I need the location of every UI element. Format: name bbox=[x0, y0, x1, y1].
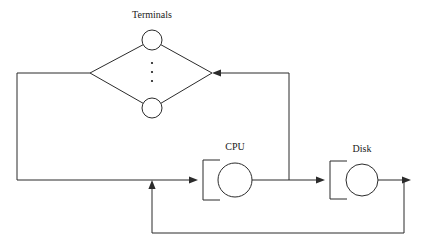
terminals-to-cpu-edge bbox=[17, 73, 198, 184]
cpu-queue-bracket bbox=[203, 160, 220, 200]
terminals-edge-right-top bbox=[161, 45, 213, 74]
disk-server-circle bbox=[346, 164, 378, 196]
terminals-edge-left-bottom bbox=[90, 73, 144, 104]
terminals-edge-right-bottom bbox=[161, 73, 213, 104]
terminals-edge-left-top bbox=[90, 45, 144, 74]
cpu-to-terminals-arrowhead bbox=[212, 69, 221, 76]
terminals-label: Terminals bbox=[132, 9, 172, 20]
queueing-network-diagram: Terminals CPU bbox=[0, 0, 431, 245]
terminal-node-top bbox=[142, 30, 162, 50]
disk-exit-arrowhead bbox=[402, 176, 411, 183]
terminals-to-cpu-line bbox=[17, 73, 191, 180]
terminals-ellipsis-icon bbox=[151, 62, 153, 82]
disk-label: Disk bbox=[353, 143, 372, 154]
cpu-to-disk-arrowhead bbox=[316, 176, 325, 183]
cpu-server-circle bbox=[218, 163, 252, 197]
cpu-node: CPU bbox=[203, 141, 252, 200]
terminals-group: Terminals bbox=[90, 9, 212, 118]
terminal-node-bottom bbox=[142, 98, 162, 118]
disk-queue-bracket bbox=[330, 161, 347, 199]
cpu-label: CPU bbox=[225, 141, 245, 152]
diagram-canvas: Terminals CPU bbox=[0, 0, 431, 245]
disk-node: Disk bbox=[330, 143, 378, 199]
cpu-to-terminals-edge bbox=[212, 69, 289, 180]
disk-to-cpu-arrowhead bbox=[148, 180, 155, 189]
terminals-to-cpu-arrowhead bbox=[189, 176, 198, 183]
